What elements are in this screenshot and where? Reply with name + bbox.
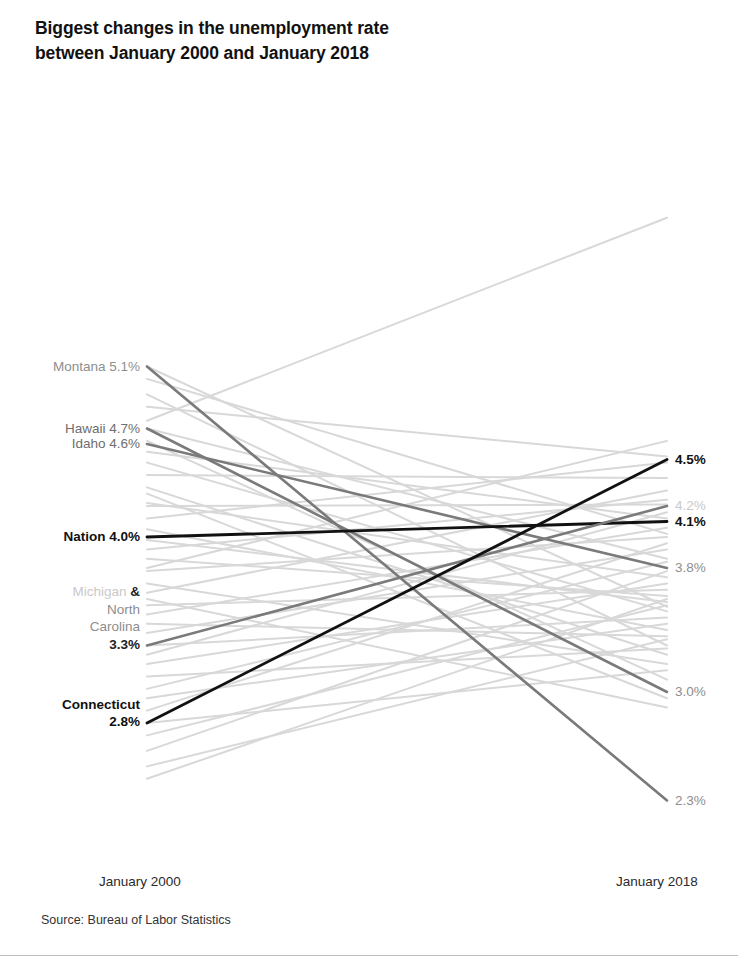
series-label-left: Idaho 4.6%	[72, 436, 140, 453]
series-label-left-line: Michigan &	[72, 583, 140, 601]
series-label-left-line: Carolina	[72, 618, 140, 636]
axis-label-left: January 2000	[99, 874, 181, 889]
background-slope-line	[147, 618, 667, 646]
series-label-left-line: Connecticut	[62, 696, 140, 714]
source-note: Source: Bureau of Labor Statistics	[41, 913, 231, 927]
series-label-left: Montana 5.1%	[53, 358, 140, 375]
series-label-right: 3.0%	[675, 684, 706, 701]
series-label-left-line: 3.3%	[72, 636, 140, 654]
series-label-right: 4.1%	[675, 513, 706, 530]
series-label-left-line: 2.8%	[62, 713, 140, 731]
series-label-left-line: North	[72, 601, 140, 619]
slopegraph-plot	[0, 0, 738, 973]
series-label-left: Hawaii 4.7%	[65, 420, 140, 437]
series-label-left: Nation 4.0%	[63, 529, 140, 546]
background-slope-line	[147, 218, 667, 421]
series-label-right: 2.3%	[675, 792, 706, 809]
series-label-right: 4.5%	[675, 451, 706, 468]
series-label-left: Michigan &NorthCarolina3.3%	[72, 583, 140, 653]
series-label-right: 4.2%	[675, 498, 706, 515]
footer-divider	[0, 955, 738, 956]
series-label-left: Connecticut2.8%	[62, 696, 140, 731]
background-slope-line	[147, 639, 667, 766]
axis-label-right: January 2018	[616, 874, 698, 889]
series-label-right: 3.8%	[675, 560, 706, 577]
